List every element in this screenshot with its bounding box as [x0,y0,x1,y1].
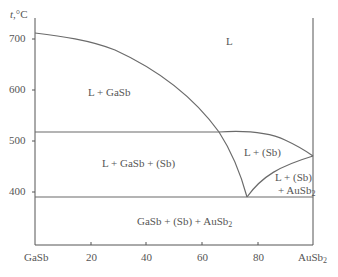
x-tick-20: 20 [86,252,97,263]
x-tick-ausb2: AuSb2 [298,252,327,265]
region-label-l-sb-ausb2-line1: L + (Sb) [275,172,312,183]
y-tick-400: 400 [9,186,26,197]
x-tick-80: 80 [253,252,264,263]
y-tick-600: 600 [9,84,26,95]
y-axis-label: t,°C [10,8,28,20]
region-label-solid: GaSb + (Sb) + AuSb2 [137,216,232,229]
liquidus-gasb-curve [35,33,247,197]
region-label-l-gasb-sb: L + GaSb + (Sb) [102,158,175,169]
phase-diagram [0,0,338,277]
x-tick-40: 40 [141,252,152,263]
x-tick-60: 60 [197,252,208,263]
region-label-l-sb-ausb2-line2: + AuSb2 [278,185,315,198]
x-tick-gasb: GaSb [24,252,48,263]
y-tick-700: 700 [9,33,26,44]
region-label-l-gasb: L + GaSb [88,87,130,98]
y-tick-500: 500 [9,135,26,146]
region-label-l-sb: L + (Sb) [244,147,281,158]
region-label-l: L [226,36,233,47]
